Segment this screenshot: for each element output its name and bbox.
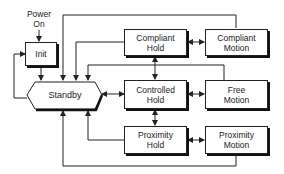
proximity-motion-line2: Motion [219, 140, 254, 150]
controlled-hold-line2: Hold [136, 95, 175, 105]
proximity-motion-line1: Proximity [219, 130, 254, 140]
free-motion-line2: Motion [224, 95, 250, 105]
compliant-hold-line2: Hold [136, 43, 174, 53]
power-label: Power [22, 9, 56, 19]
compliant-motion-line1: Compliant [217, 33, 255, 43]
init-label: Init [35, 49, 46, 59]
state-init: Init [25, 42, 57, 66]
compliant-motion-line2: Motion [217, 43, 255, 53]
compliant-hold-line1: Compliant [136, 33, 174, 43]
free-motion-line1: Free [224, 85, 250, 95]
on-label: On [22, 19, 56, 29]
power-on-label: Power On [22, 9, 56, 29]
state-proximity-hold: Proximity Hold [124, 126, 187, 154]
state-proximity-motion: Proximity Motion [205, 126, 268, 154]
state-controlled-hold: Controlled Hold [124, 80, 187, 109]
proximity-hold-line1: Proximity [138, 130, 173, 140]
proximity-hold-line2: Hold [138, 140, 173, 150]
standby-label: Standby [48, 90, 81, 100]
state-standby: Standby [35, 90, 95, 100]
state-compliant-motion: Compliant Motion [205, 29, 268, 56]
state-free-motion: Free Motion [205, 80, 268, 109]
state-compliant-hold: Compliant Hold [124, 29, 187, 56]
controlled-hold-line1: Controlled [136, 85, 175, 95]
